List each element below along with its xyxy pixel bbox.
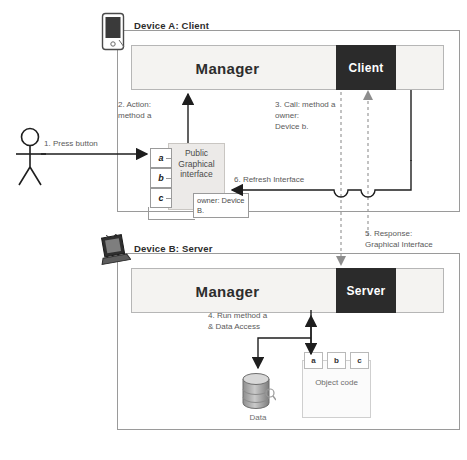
diagram-canvas: Device A: Client Manager Client Public G… bbox=[0, 0, 467, 460]
step-1-label: 1. Press button bbox=[44, 138, 98, 149]
step-2-label: 2. Action: method a bbox=[118, 99, 151, 121]
step-6-label: 6. Refresh Interface bbox=[234, 174, 304, 185]
step-5-label: 5. Response: Graphical Interface bbox=[365, 228, 433, 250]
step-3-label: 3. Call: method a owner: Device b. bbox=[275, 99, 335, 132]
step-4-label: 4. Run method a & Data Access bbox=[208, 310, 267, 332]
